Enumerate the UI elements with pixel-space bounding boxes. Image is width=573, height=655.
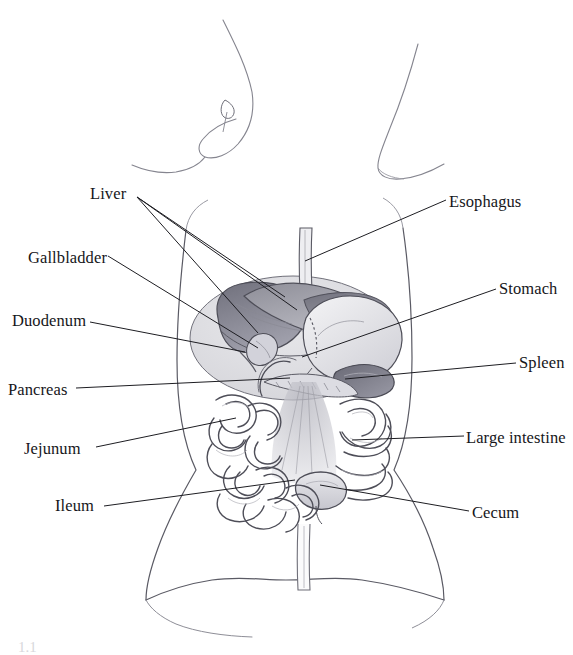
label-stomach: Stomach: [499, 281, 557, 298]
leader-line-jejunum: [96, 418, 236, 447]
midline-structure: [297, 524, 310, 590]
cecum-organ: [296, 472, 347, 524]
leader-line-liver-1: [137, 197, 285, 297]
anatomy-figure: Liver Gallbladder Duodenum Pancreas Jeju…: [0, 0, 573, 655]
leader-line-large-intestine: [352, 436, 464, 440]
label-esophagus: Esophagus: [449, 194, 521, 211]
leader-line-liver-3: [137, 197, 258, 333]
label-duodenum: Duodenum: [12, 313, 86, 330]
label-cecum: Cecum: [472, 505, 519, 522]
leader-line-liver-2: [137, 197, 297, 310]
esophagus-organ: [299, 228, 312, 292]
leader-line-esophagus: [305, 200, 446, 261]
label-large-intestine: Large intestine: [466, 430, 566, 447]
label-gallbladder: Gallbladder: [28, 250, 107, 267]
label-spleen: Spleen: [519, 355, 565, 372]
label-ileum: Ileum: [55, 498, 94, 515]
leader-line-ileum: [104, 480, 295, 506]
large-intestine-wall-shading: [342, 412, 382, 476]
label-pancreas: Pancreas: [8, 382, 67, 399]
caption-fragment: 1.1: [18, 640, 37, 655]
label-liver: Liver: [90, 186, 126, 203]
label-jejunum: Jejunum: [24, 441, 81, 458]
